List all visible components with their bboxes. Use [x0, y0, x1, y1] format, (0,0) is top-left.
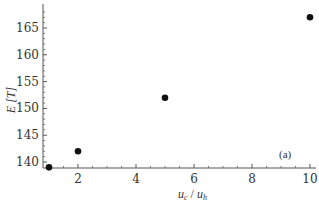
x-tick-label: 6 — [190, 172, 198, 186]
y-ticks: 140145150155160165 — [16, 12, 47, 169]
data-points — [46, 14, 314, 171]
y-tick-label: 155 — [16, 75, 39, 89]
scatter-chart: 140145150155160165 246810 (a) E [T] uc /… — [0, 0, 319, 215]
y-axis-label: E [T] — [4, 86, 18, 114]
data-point — [46, 164, 53, 171]
data-point — [162, 94, 169, 101]
x-axis-label: uc / uh — [178, 187, 207, 202]
axes — [43, 4, 316, 168]
x-label-sub-h: h — [203, 193, 207, 202]
data-point — [75, 148, 82, 155]
panel-label: (a) — [279, 148, 292, 161]
x-tick-label: 4 — [132, 172, 140, 186]
y-tick-label: 145 — [16, 128, 39, 142]
y-tick-label: 165 — [16, 21, 39, 35]
svg-text:uc / uh: uc / uh — [178, 187, 207, 202]
x-label-sep: / — [188, 187, 197, 201]
y-tick-label: 150 — [16, 101, 39, 115]
x-tick-label: 2 — [74, 172, 82, 186]
y-tick-label: 160 — [16, 48, 39, 62]
x-ticks: 246810 — [49, 164, 318, 186]
data-point — [307, 14, 314, 21]
x-tick-label: 10 — [302, 172, 317, 186]
y-tick-label: 140 — [16, 155, 39, 169]
x-tick-label: 8 — [248, 172, 256, 186]
